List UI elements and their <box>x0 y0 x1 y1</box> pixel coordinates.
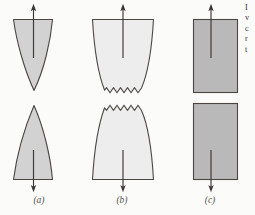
panel-c: (c) <box>194 4 238 206</box>
panel-a-caption: (a) <box>33 195 44 206</box>
side-text-line-2: v <box>245 13 255 23</box>
panel-a: (a) <box>14 4 53 206</box>
panel-c-bottom-piece <box>194 104 238 180</box>
panel-b: (b) <box>93 4 154 206</box>
panel-c-caption: (c) <box>205 195 216 206</box>
figure-page: (a) (b) <box>0 0 255 215</box>
panel-c-top-piece <box>194 20 238 93</box>
panel-b-caption: (b) <box>116 195 127 206</box>
side-text-line-3: c <box>245 24 255 34</box>
side-text-line-5: t <box>245 45 255 55</box>
side-text-line-1: I <box>245 3 255 13</box>
side-text-line-4: r <box>245 34 255 44</box>
clipped-side-text: I v c r t <box>245 3 255 58</box>
fracture-modes-figure: (a) (b) <box>0 0 255 215</box>
